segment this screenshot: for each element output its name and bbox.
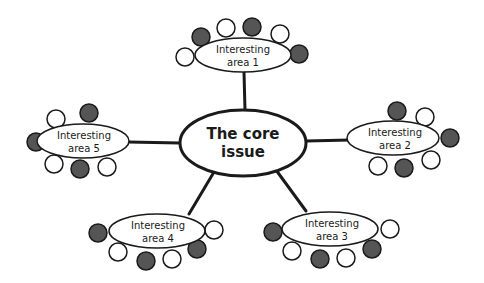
area-5-label-line1: Interesting <box>57 130 111 141</box>
filled-circle <box>395 159 413 177</box>
filled-circle <box>388 102 406 120</box>
open-circle <box>205 221 223 239</box>
filled-circle <box>137 252 155 270</box>
open-circle <box>422 151 440 169</box>
filled-circle <box>290 45 308 63</box>
connector-area-3 <box>276 170 306 211</box>
connector-area-2 <box>306 140 350 141</box>
open-circle <box>176 48 194 66</box>
area-4-label-line1: Interesting <box>131 220 185 231</box>
open-circle <box>45 155 63 173</box>
filled-circle <box>264 223 282 241</box>
area-2-label-line1: Interesting <box>368 127 422 138</box>
area-1-label-line2: area 1 <box>227 57 259 68</box>
open-circle <box>163 250 181 268</box>
connector-area-1 <box>244 72 245 110</box>
open-circle <box>271 25 289 43</box>
area-3-label-line1: Interesting <box>305 218 359 229</box>
area-2-label-line2: area 2 <box>379 140 411 151</box>
filled-circle <box>363 240 381 258</box>
open-circle <box>381 220 399 238</box>
area-1-label-line1: Interesting <box>216 44 270 55</box>
mind-map-diagram: The core issue <box>0 0 484 283</box>
open-circle <box>337 249 355 267</box>
core-label-line2: issue <box>221 143 265 161</box>
core-issue-node: The core issue <box>180 110 306 176</box>
filled-circle <box>311 250 329 268</box>
area-4-label-line2: area 4 <box>142 233 174 244</box>
area-3-label-line2: area 3 <box>316 231 348 242</box>
filled-circle <box>243 18 261 36</box>
open-circle <box>98 158 116 176</box>
open-circle <box>283 242 301 260</box>
filled-circle <box>71 160 89 178</box>
area-5-node <box>27 104 129 178</box>
filled-circle <box>80 104 98 122</box>
filled-circle <box>441 129 459 147</box>
filled-circle <box>89 224 107 242</box>
connector-area-5 <box>128 142 180 143</box>
area-5-label-line2: area 5 <box>68 143 100 154</box>
open-circle <box>369 157 387 175</box>
connector-area-4 <box>189 172 214 214</box>
open-circle <box>109 243 127 261</box>
open-circle <box>217 19 235 37</box>
core-label-line1: The core <box>206 125 279 143</box>
